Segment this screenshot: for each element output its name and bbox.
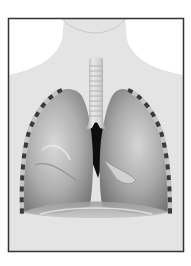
anatomy-figure xyxy=(0,0,191,266)
